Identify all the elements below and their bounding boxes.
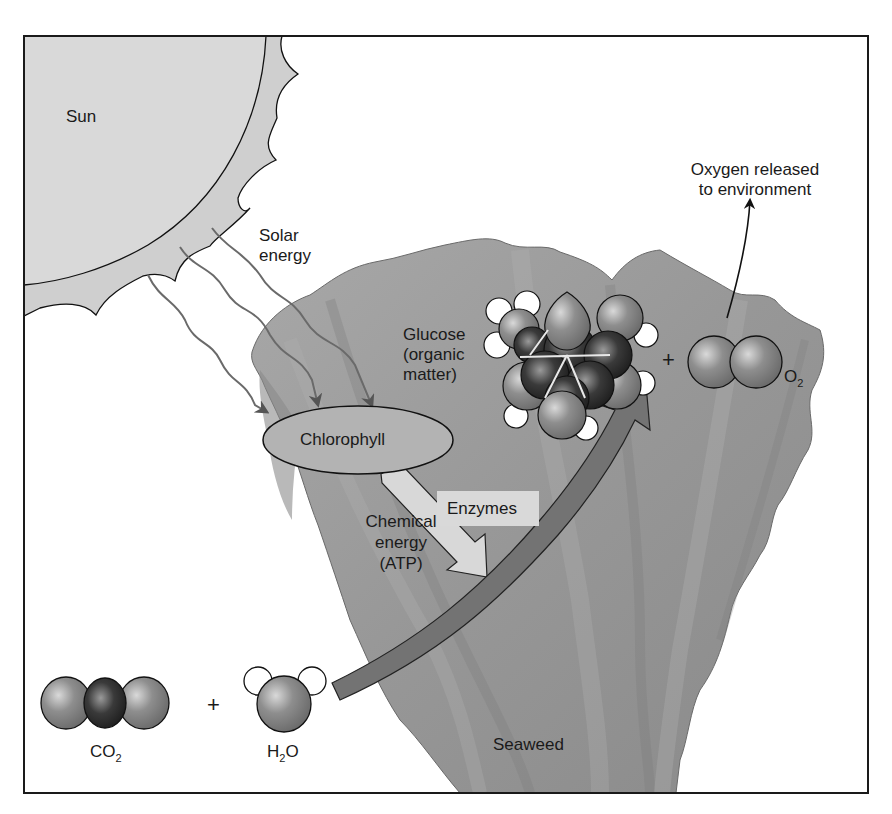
chlorophyll-label: Chlorophyll: [300, 430, 385, 450]
co2-subscript: 2: [116, 752, 122, 764]
co2-base: CO: [90, 742, 116, 761]
glucose-line-1: Glucose: [403, 325, 465, 345]
o2-subscript: 2: [797, 377, 803, 389]
oxygen-released-label: Oxygen released to environment: [670, 160, 840, 200]
oxygen-released-line-2: to environment: [670, 180, 840, 200]
plus-sign-reactants: +: [207, 695, 220, 715]
chemical-energy-line-3: (ATP): [356, 553, 446, 574]
seaweed-label: Seaweed: [493, 735, 564, 755]
co2-formula: CO2: [90, 742, 122, 768]
plus-sign-products: +: [662, 350, 675, 370]
sun-shape: [24, 36, 298, 316]
glucose-line-3: matter): [403, 365, 465, 385]
enzymes-label: Enzymes: [447, 499, 517, 519]
photosynthesis-diagram: Sun Solar energy Glucose (organic matter…: [0, 0, 892, 814]
o2-formula: O2: [784, 367, 803, 393]
solar-energy-line-1: Solar: [259, 226, 311, 246]
solar-energy-label: Solar energy: [259, 226, 311, 266]
solar-energy-line-2: energy: [259, 246, 311, 266]
chemical-energy-line-2: energy: [356, 532, 446, 553]
h2o-formula: H2O: [267, 742, 299, 768]
glucose-line-2: (organic: [403, 345, 465, 365]
oxygen-released-line-1: Oxygen released: [670, 160, 840, 180]
h2o-prefix: H: [267, 742, 279, 761]
sun-label: Sun: [66, 107, 96, 127]
glucose-label: Glucose (organic matter): [403, 325, 465, 385]
co2-molecule: [41, 677, 169, 729]
o2-base: O: [784, 367, 797, 386]
chemical-energy-label: Chemical energy (ATP): [356, 511, 446, 574]
chemical-energy-line-1: Chemical: [356, 511, 446, 532]
h2o-molecule: [244, 667, 326, 732]
diagram-artwork: [0, 0, 892, 814]
h2o-suffix: O: [285, 742, 298, 761]
